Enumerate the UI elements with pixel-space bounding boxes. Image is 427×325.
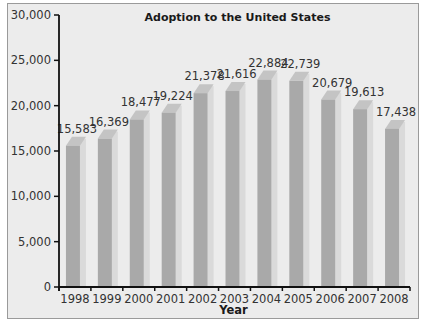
value-label: 19,613 — [344, 85, 384, 99]
y-tick-label: 10,000 — [11, 189, 51, 203]
bar-side — [80, 139, 86, 287]
bar — [353, 109, 367, 287]
value-label: 22,739 — [280, 57, 320, 71]
bar — [289, 81, 303, 287]
y-tick-label: 25,000 — [11, 53, 51, 67]
bar-side — [335, 93, 341, 287]
x-axis-title: Year — [218, 303, 248, 317]
bar-side — [240, 84, 246, 287]
bar — [257, 80, 271, 287]
x-tick-label: 2001 — [156, 292, 185, 306]
bar — [226, 91, 240, 287]
bar-side — [176, 106, 182, 287]
bar-side — [399, 122, 405, 287]
bar-side — [271, 73, 277, 287]
x-tick-label: 2008 — [379, 292, 408, 306]
bar — [162, 113, 176, 287]
bar — [385, 129, 399, 287]
bar-side — [144, 112, 150, 287]
x-tick-label: 2006 — [316, 292, 345, 306]
x-tick-label: 2004 — [252, 292, 281, 306]
bar-side — [367, 102, 373, 287]
value-label: 17,438 — [376, 105, 416, 119]
y-tick-label: 30,000 — [11, 8, 51, 22]
bar — [98, 139, 112, 287]
bar-side — [303, 74, 309, 287]
x-tick-label: 1998 — [60, 292, 89, 306]
bar-chart: 15,583199816,369199918,477200019,2242001… — [0, 0, 427, 325]
x-tick-label: 2002 — [188, 292, 217, 306]
x-tick-label: 2007 — [347, 292, 376, 306]
x-tick-label: 2005 — [284, 292, 313, 306]
value-label: 19,224 — [153, 89, 193, 103]
bar — [66, 146, 80, 287]
bar-side — [208, 86, 214, 287]
y-tick-label: 20,000 — [11, 99, 51, 113]
bar — [194, 93, 208, 287]
bar — [321, 100, 335, 287]
value-label: 16,369 — [89, 115, 129, 129]
y-tick-label: 0 — [44, 280, 51, 294]
y-tick-label: 5,000 — [18, 235, 51, 249]
y-tick-label: 15,000 — [11, 144, 51, 158]
x-tick-label: 2000 — [124, 292, 153, 306]
bar — [130, 119, 144, 287]
x-tick-label: 1999 — [92, 292, 121, 306]
bar-side — [112, 132, 118, 287]
